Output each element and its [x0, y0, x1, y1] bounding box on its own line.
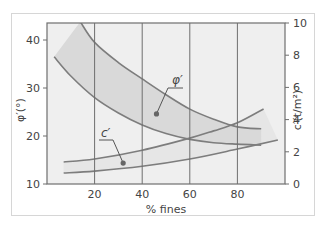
x-tick-label: 20: [88, 188, 102, 201]
left-tick-label: 40: [26, 34, 40, 47]
x-tick-label: 40: [135, 188, 149, 201]
x-tick-label: 80: [230, 188, 244, 201]
c-marker-dot: [121, 160, 126, 165]
x-tick-label: 60: [183, 188, 197, 201]
left-axis-label: φ′(°): [14, 98, 27, 122]
c-label: c′: [101, 126, 111, 140]
right-tick-label: 10: [293, 17, 307, 30]
phi-label: φ′: [172, 73, 183, 87]
right-axis-label: c′(t/m²): [291, 90, 304, 130]
right-tick-label: 0: [293, 178, 300, 191]
left-tick-label: 10: [26, 178, 40, 191]
left-tick-label: 20: [26, 130, 40, 143]
chart: 10203040024681020406080% finesφ′(°)c′(t/…: [0, 0, 328, 225]
right-tick-label: 2: [293, 146, 300, 159]
right-tick-label: 8: [293, 49, 300, 62]
x-axis-label: % fines: [146, 203, 187, 216]
phi-marker-dot: [154, 111, 159, 116]
left-tick-label: 30: [26, 82, 40, 95]
